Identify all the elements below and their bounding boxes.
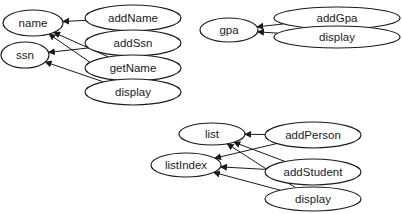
node-label: display bbox=[295, 193, 331, 205]
node-label: display bbox=[319, 31, 355, 43]
method-node-addPerson: addPerson bbox=[265, 122, 361, 148]
data-node-ssn: ssn bbox=[1, 42, 49, 68]
node-label: addSsn bbox=[113, 37, 152, 49]
node-label: list bbox=[205, 128, 220, 140]
edge-addGpa-to-gpa bbox=[257, 24, 284, 27]
data-node-name: name bbox=[3, 10, 63, 36]
node-label: addStudent bbox=[284, 166, 344, 178]
node-label: addPerson bbox=[285, 129, 341, 141]
node-label: listIndex bbox=[165, 159, 207, 171]
method-node-addSsn: addSsn bbox=[85, 30, 181, 56]
data-node-list: list bbox=[179, 123, 245, 145]
node-label: addGpa bbox=[317, 12, 359, 24]
node-label: name bbox=[19, 17, 48, 29]
data-node-gpa: gpa bbox=[200, 18, 258, 42]
edge-display2-to-gpa bbox=[258, 32, 278, 33]
node-label: display bbox=[115, 86, 151, 98]
data-node-listIndex: listIndex bbox=[151, 153, 221, 177]
method-node-display1: display bbox=[85, 79, 181, 105]
method-node-addName: addName bbox=[85, 5, 181, 31]
node-label: getName bbox=[110, 62, 157, 74]
method-node-addStudent: addStudent bbox=[265, 159, 361, 185]
node-label: addName bbox=[108, 12, 158, 24]
edge-addSsn-to-ssn bbox=[49, 48, 89, 52]
edge-addStudent-to-listIndex bbox=[221, 167, 266, 170]
node-label: gpa bbox=[219, 24, 239, 36]
dependency-diagram: namessnaddNameaddSsngetNamedisplaygpaadd… bbox=[0, 0, 402, 214]
method-node-getName: getName bbox=[85, 55, 181, 81]
node-label: ssn bbox=[16, 49, 34, 61]
method-node-display3: display bbox=[265, 187, 361, 211]
method-node-display2: display bbox=[274, 26, 400, 48]
edge-addName-to-name bbox=[63, 20, 86, 21]
